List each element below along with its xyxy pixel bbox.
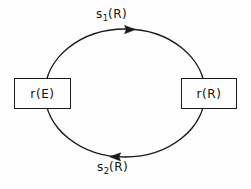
node-box-left: r(E) (14, 78, 71, 109)
node-label-left: r(E) (30, 88, 54, 100)
edge-label-bottom-subscript: 2 (104, 166, 109, 176)
node-label-right: r(R) (196, 88, 221, 100)
edge-label-bottom-prefix: s (97, 160, 104, 174)
edge-label-top: s1(R) (96, 8, 127, 20)
node-box-right: r(R) (181, 78, 237, 109)
top-arc-arrowhead (125, 25, 136, 33)
cycle-diagram-figure: r(E) r(R) s1(R) s2(R) (0, 0, 251, 189)
edge-label-bottom: s2(R) (97, 161, 128, 173)
edge-label-top-subscript: 1 (103, 13, 108, 23)
edge-label-top-prefix: s (96, 7, 103, 21)
edge-label-top-suffix: (R) (108, 7, 127, 21)
edge-label-bottom-suffix: (R) (109, 160, 128, 174)
